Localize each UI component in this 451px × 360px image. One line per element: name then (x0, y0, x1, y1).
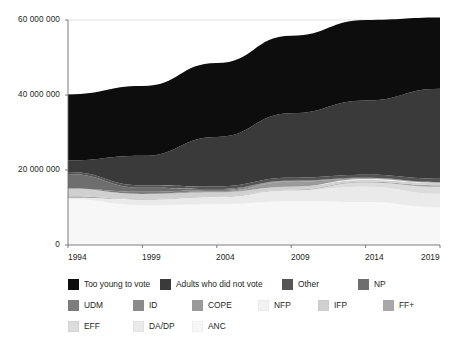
area-anc (68, 199, 440, 245)
legend-swatch-icon (318, 300, 329, 311)
legend-label: ID (149, 301, 157, 309)
legend-label: Adults who did not vote (176, 280, 263, 288)
legend-item-ifp[interactable]: IFP (318, 297, 347, 313)
x-tick-label-1999: 1999 (142, 253, 161, 261)
legend-swatch-icon (68, 300, 79, 311)
legend-item-anc[interactable]: ANC (192, 318, 226, 334)
legend-label: Too young to vote (84, 280, 150, 288)
legend-swatch-icon (133, 300, 144, 311)
legend-swatch-icon (192, 321, 203, 332)
legend-swatch-icon (258, 300, 269, 311)
legend-swatch-icon (160, 279, 171, 290)
y-tick-label-20m: 20 000 000 (4, 166, 60, 174)
legend-item-udm[interactable]: UDM (68, 297, 103, 313)
legend-swatch-icon (68, 279, 79, 290)
chart-legend: Too young to voteAdults who did not vote… (0, 276, 451, 360)
legend-item-cope[interactable]: COPE (192, 297, 232, 313)
legend-row: Too young to voteAdults who did not vote… (0, 276, 451, 292)
legend-item-adults-who-did-not-vote[interactable]: Adults who did not vote (160, 276, 263, 292)
x-tick-label-2009: 2009 (291, 253, 310, 261)
x-tick-label-2014: 2014 (365, 253, 384, 261)
legend-label: ANC (208, 322, 226, 330)
legend-label: COPE (208, 301, 232, 309)
y-tick-label-40m: 40 000 000 (4, 91, 60, 99)
legend-item-nfp[interactable]: NFP (258, 297, 291, 313)
legend-swatch-icon (383, 300, 394, 311)
legend-item-da-dp[interactable]: DA/DP (133, 318, 175, 334)
legend-item-id[interactable]: ID (133, 297, 157, 313)
legend-item-other[interactable]: Other (282, 276, 319, 292)
legend-label: DA/DP (149, 322, 175, 330)
legend-label: NP (374, 280, 386, 288)
plot-svg (0, 0, 451, 272)
legend-item-np[interactable]: NP (358, 276, 386, 292)
legend-item-ff[interactable]: FF+ (383, 297, 414, 313)
legend-swatch-icon (358, 279, 369, 290)
x-tick-label-2019: 2019 (421, 253, 440, 261)
stacked-area-chart: 60 000 000 40 000 000 20 000 000 0 1994 … (0, 0, 451, 360)
y-tick-label-60m: 60 000 000 (4, 16, 60, 24)
legend-swatch-icon (192, 300, 203, 311)
legend-row: EFFDA/DPANC (0, 318, 451, 334)
legend-row: UDMIDCOPENFPIFPFF+ (0, 297, 451, 313)
legend-label: IFP (334, 301, 347, 309)
legend-item-eff[interactable]: EFF (68, 318, 100, 334)
plot-area: 60 000 000 40 000 000 20 000 000 0 1994 … (0, 0, 451, 272)
legend-label: Other (298, 280, 319, 288)
legend-label: EFF (84, 322, 100, 330)
legend-item-too-young-to-vote[interactable]: Too young to vote (68, 276, 150, 292)
legend-swatch-icon (133, 321, 144, 332)
legend-label: NFP (274, 301, 291, 309)
x-tick-label-2004: 2004 (216, 253, 235, 261)
y-tick-label-0: 0 (4, 241, 60, 249)
legend-label: UDM (84, 301, 103, 309)
legend-label: FF+ (399, 301, 414, 309)
x-tick-label-1994: 1994 (68, 253, 87, 261)
legend-swatch-icon (282, 279, 293, 290)
area-series-group (68, 18, 440, 245)
legend-swatch-icon (68, 321, 79, 332)
